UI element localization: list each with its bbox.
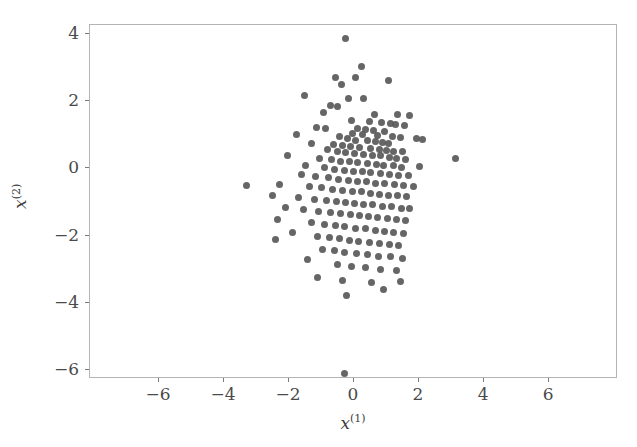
scatter-point [367,145,374,152]
scatter-point [308,219,315,226]
scatter-point [298,171,305,178]
scatter-point [380,286,387,293]
scatter-point [366,239,373,246]
x-axis-tick [483,378,484,382]
y-axis-tick [85,167,89,168]
scatter-point [376,240,383,247]
scatter-point [352,74,359,81]
scatter-point [362,264,369,271]
scatter-point [362,225,369,232]
scatter-point [377,266,384,273]
scatter-point [325,174,332,181]
scatter-point [343,292,350,299]
scatter-point [383,147,390,154]
scatter-point [386,154,393,161]
scatter-point [272,236,279,243]
scatter-point [313,124,320,131]
scatter-point [359,168,366,175]
axis-label-superscript: (2) [10,184,23,200]
scatter-point [391,181,398,188]
scatter-point [289,229,296,236]
scatter-point [322,125,329,132]
scatter-point [323,197,330,204]
scatter-point [358,63,365,70]
scatter-point [341,249,348,256]
scatter-point [335,176,342,183]
x-axis-tick [223,378,224,382]
scatter-point [314,233,321,240]
scatter-point [389,133,396,140]
scatter-point [282,204,289,211]
x-axis-tick-label: 6 [523,384,573,404]
x-axis-label: x(1) [89,412,617,433]
scatter-point [393,155,400,162]
scatter-point [360,201,367,208]
scatter-point [243,182,250,189]
scatter-point [399,148,406,155]
scatter-point [400,230,407,237]
scatter-point [342,35,349,42]
scatter-point [397,278,404,285]
scatter-point [316,155,323,162]
scatter-point [342,149,349,156]
scatter-point [367,190,374,197]
scatter-point [351,150,358,157]
scatter-point [372,227,379,234]
scatter-point [356,212,363,219]
scatter-point [366,118,373,125]
scatter-point [301,92,308,99]
scatter-point [293,131,300,138]
scatter-point [346,237,353,244]
scatter-point [269,192,276,199]
axis-label-base: x [10,199,30,209]
scatter-point [374,214,381,221]
scatter-point [348,263,355,270]
y-axis-tick [85,33,89,34]
y-axis-tick-label: 0 [29,157,79,177]
scatter-point [416,163,423,170]
x-axis-tick-label: −2 [263,384,313,404]
x-axis-tick-label: 0 [328,384,378,404]
scatter-point [300,206,307,213]
scatter-plot-figure: −6−4−20246 420−2−4−6 x(1) x(2) [0,0,637,447]
scatter-point [334,148,341,155]
scatter-point [332,222,339,229]
scatter-point [384,215,391,222]
scatter-point [327,102,334,109]
scatter-point [354,159,361,166]
y-axis-tick-label: 4 [29,23,79,43]
scatter-point [295,194,302,201]
scatter-point [365,213,372,220]
scatter-point [392,121,399,128]
scatter-point [394,111,401,118]
scatter-point [399,255,406,262]
scatter-point [398,164,405,171]
scatter-point [363,178,370,185]
scatter-point [390,229,397,236]
scatter-point [393,216,400,223]
scatter-point [338,81,345,88]
x-axis-tick-label: −6 [133,384,183,404]
scatter-point [342,199,349,206]
scatter-point [355,238,362,245]
scatter-point [364,137,371,144]
scatter-point [331,247,338,254]
scatter-point [386,241,393,248]
scatter-point [334,103,341,110]
scatter-point [334,261,341,268]
scatter-point [393,267,400,274]
x-axis-tick-label: 2 [393,384,443,404]
scatter-point [311,196,318,203]
scatter-point [368,279,375,286]
scatter-point [395,242,402,249]
y-axis-tick-label: 2 [29,90,79,110]
scatter-point [367,169,374,176]
scatter-point [369,201,376,208]
scatter-point [324,146,331,153]
scatter-point [377,152,384,159]
scatter-point [351,200,358,207]
scatter-point [314,274,321,281]
scatter-point [390,162,397,169]
scatter-point [304,256,311,263]
scatter-point [348,117,355,124]
